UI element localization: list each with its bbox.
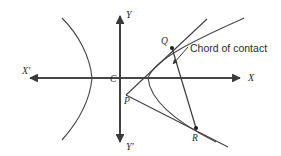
hyperbola-curve-group	[62, 18, 244, 142]
chord-of-contact-line	[172, 48, 196, 128]
point-label-C: C	[110, 74, 117, 84]
point-label-Q: Q	[161, 36, 168, 46]
point-label-P: P	[123, 96, 130, 106]
point-marker-R	[194, 126, 198, 130]
diagram-canvas: X X' Y Y' C P Q R Chord of contact	[0, 0, 281, 156]
tangent-lines-group	[126, 19, 228, 147]
hyperbola-left-branch	[62, 18, 92, 140]
y-axis-negative-label: Y'	[126, 141, 135, 152]
x-axis-positive-label: X	[247, 72, 255, 83]
x-axis-negative-label: X'	[21, 65, 31, 76]
tangent-line-PR	[126, 95, 228, 147]
chord-of-contact-annotation: Chord of contact	[190, 42, 267, 54]
chord-of-contact-diagram: X X' Y Y' C P Q R Chord of contact	[0, 0, 281, 156]
point-marker-Q	[170, 46, 174, 50]
tangent-line-PQ	[126, 19, 207, 95]
y-axis-positive-label: Y	[126, 9, 133, 20]
point-label-R: R	[191, 133, 198, 143]
